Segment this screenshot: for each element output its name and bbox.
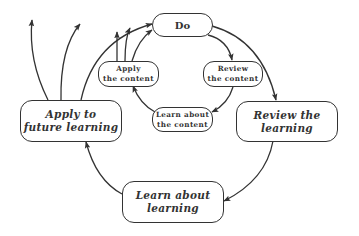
node-apply-future-line1: Apply to <box>24 108 119 121</box>
arrow-apply-future-out-1 <box>31 20 48 100</box>
node-review-content-line2: the content <box>208 74 259 84</box>
arrow-apply-content-to-do-3 <box>132 30 152 61</box>
node-learn-content: Learn about the content <box>152 107 213 132</box>
arrow-review-to-learn-learning <box>224 141 273 201</box>
node-review-learning-line2: learning <box>253 122 320 135</box>
node-learn-content-line1: Learn about <box>156 110 209 120</box>
node-review-learning: Review the learning <box>236 101 338 142</box>
node-do-label: Do <box>175 20 190 31</box>
arrow-learn-to-apply-future <box>86 142 122 194</box>
node-apply-future-line2: future learning <box>24 121 119 134</box>
node-review-content: Review the content <box>203 61 263 87</box>
node-review-content-line1: Review <box>208 64 259 74</box>
node-apply-content-line1: Apply <box>103 64 154 74</box>
arrow-apply-future-out-2 <box>61 24 80 100</box>
node-apply-content: Apply the content <box>98 61 159 87</box>
node-apply-content-line2: the content <box>103 74 154 84</box>
node-review-learning-line1: Review the <box>253 109 320 122</box>
arrow-review-to-learn-content <box>212 87 233 112</box>
arrow-learn-to-apply-content <box>133 86 155 112</box>
node-learn-learning: Learn about learning <box>122 181 224 223</box>
node-learn-content-line2: the content <box>156 120 209 130</box>
arrow-do-to-review-content <box>208 35 232 60</box>
node-learn-learning-line1: Learn about <box>136 189 211 202</box>
node-apply-future: Apply to future learning <box>20 100 122 142</box>
node-learn-learning-line2: learning <box>136 202 211 215</box>
node-do: Do <box>152 13 213 37</box>
